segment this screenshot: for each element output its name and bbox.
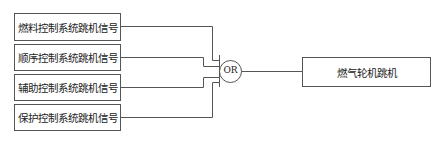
input-label: 燃料控制系统跳机信号 xyxy=(18,20,118,35)
input-box-sequence-control: 顺序控制系统跳机信号 xyxy=(14,44,121,71)
input-label: 辅助控制系统跳机信号 xyxy=(18,80,118,95)
wire-input-1 xyxy=(120,27,219,61)
output-box-gas-turbine-trip: 燃气轮机跳机 xyxy=(302,57,431,87)
input-box-fuel-control: 燃料控制系统跳机信号 xyxy=(14,13,121,41)
input-box-protection-control: 保护控制系统跳机信号 xyxy=(14,104,121,131)
wire-input-2 xyxy=(120,58,219,67)
input-label: 顺序控制系统跳机信号 xyxy=(18,50,118,65)
input-label: 保护控制系统跳机信号 xyxy=(18,110,118,125)
wire-input-3 xyxy=(120,78,219,88)
or-gate-label: OR xyxy=(220,65,242,75)
input-box-auxiliary-control: 辅助控制系统跳机信号 xyxy=(14,74,121,101)
output-label: 燃气轮机跳机 xyxy=(337,65,397,80)
